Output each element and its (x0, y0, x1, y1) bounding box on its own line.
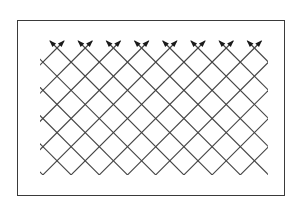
lattice-line (0, 48, 306, 208)
lattice-line (0, 48, 175, 208)
lattice-line (0, 48, 306, 208)
lattice-line (0, 48, 203, 208)
lattice-line (0, 48, 119, 208)
lattice-line (29, 48, 306, 208)
lattice-line (0, 48, 306, 208)
lattice-line (0, 48, 142, 208)
lattice-line (283, 48, 306, 208)
lattice-lines (0, 48, 306, 208)
lattice-line (1, 48, 306, 208)
lattice-line (0, 48, 170, 208)
lattice-line (0, 48, 260, 208)
lattice-line (0, 48, 283, 208)
lattice-diagram (0, 0, 306, 208)
lattice-line (142, 48, 306, 208)
lattice-line (226, 48, 306, 208)
lattice-line (0, 48, 306, 208)
lattice-line (0, 48, 306, 208)
lattice-line (0, 48, 254, 208)
lattice-line (0, 48, 306, 208)
arrow-heads (49, 40, 262, 48)
lattice-line (0, 48, 29, 208)
lattice-line (0, 48, 113, 208)
lattice-line (0, 48, 147, 208)
lattice-line (170, 48, 306, 208)
lattice-line (0, 48, 1, 208)
lattice-line (0, 48, 306, 208)
lattice-line (57, 48, 306, 208)
lattice-line (113, 48, 306, 208)
lattice-line (0, 48, 231, 208)
lattice-line (0, 48, 57, 208)
lattice-line (0, 48, 85, 208)
lattice-line (165, 48, 306, 208)
lattice-line (254, 48, 306, 208)
lattice-line (0, 48, 226, 208)
lattice-line (0, 48, 198, 208)
lattice-line (0, 48, 288, 208)
lattice-line (198, 48, 306, 208)
